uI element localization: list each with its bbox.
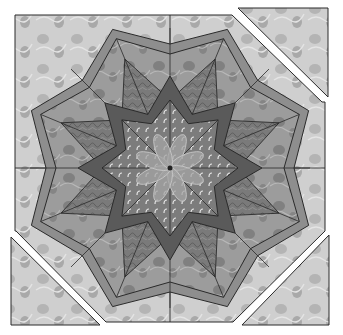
quilt-svg: [0, 0, 343, 335]
quilt-block-image: [0, 0, 343, 335]
flower-center: [168, 166, 173, 171]
